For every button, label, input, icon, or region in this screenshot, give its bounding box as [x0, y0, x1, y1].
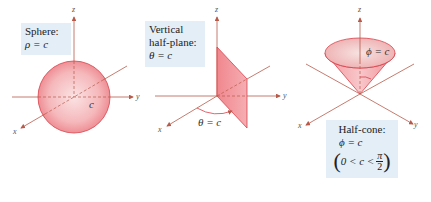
sphere-equation: ρ = c: [25, 38, 67, 51]
x-axis-label: x: [298, 121, 302, 130]
paren-close: ): [383, 150, 390, 172]
y-axis-label: y: [283, 91, 287, 100]
sphere-label-box: Sphere: ρ = c: [21, 23, 71, 55]
x-axis-label: x: [158, 125, 162, 134]
half-plane-equation: θ = c: [149, 49, 201, 62]
constraint-body: 0 < c <: [341, 155, 374, 168]
radius-label: c: [89, 99, 94, 110]
z-axis-label: z: [215, 5, 218, 14]
frac-denominator: 2: [377, 162, 382, 172]
angle-label: θ = c: [198, 117, 221, 128]
half-cone-label-box: Half-cone: ϕ = c ( 0 < c < π 2 ): [326, 120, 398, 178]
z-axis-label: z: [72, 5, 75, 14]
paren-open: (: [333, 150, 340, 172]
half-plane-label-box: Vertical half-plane: θ = c: [145, 21, 205, 67]
z-axis-label: z: [358, 5, 361, 14]
y-axis-label: y: [136, 92, 140, 101]
pi-over-two: π 2: [376, 151, 383, 172]
half-cone-panel: [306, 18, 414, 125]
cone-angle-label: ϕ = c: [366, 46, 390, 57]
x-axis: [21, 114, 45, 128]
sphere-title: Sphere:: [25, 25, 67, 38]
half-cone-title: Half-cone:: [326, 120, 398, 136]
half-cone-constraint: ( 0 < c < π 2 ): [326, 150, 398, 172]
angle-arc: [197, 108, 232, 114]
x-axis-back: [103, 66, 127, 80]
x-axis-back: [247, 66, 270, 79]
frac-numerator: π: [376, 151, 383, 162]
half-plane-title-1: Vertical: [149, 23, 201, 36]
half-plane-title-2: half-plane:: [149, 36, 201, 49]
x-axis-label: x: [13, 127, 17, 136]
y-axis-label: y: [414, 120, 418, 129]
